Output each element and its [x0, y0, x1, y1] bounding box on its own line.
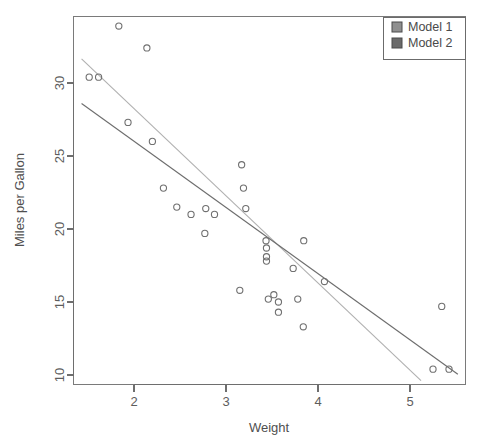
x-tick-label: 2: [130, 394, 137, 409]
figure-background: [0, 0, 477, 448]
x-tick-label: 5: [406, 394, 413, 409]
y-tick-label: 25: [52, 149, 67, 163]
legend[interactable]: Model 1Model 2: [384, 18, 466, 60]
x-tick-label: 3: [222, 394, 229, 409]
y-tick-label: 15: [52, 295, 67, 309]
y-tick-label: 10: [52, 368, 67, 382]
x-tick-label: 4: [314, 394, 321, 409]
legend-swatch-model-1[interactable]: [392, 22, 402, 32]
y-tick-label: 30: [52, 76, 67, 90]
chart-canvas: 1015202530 2345 Weight Miles per Gallon …: [0, 0, 477, 448]
y-axis-title: Miles per Gallon: [12, 153, 27, 247]
legend-swatch-model-2[interactable]: [392, 38, 402, 48]
legend-label-model-2: Model 2: [408, 36, 453, 50]
x-axis-title: Weight: [249, 420, 290, 435]
y-tick-label: 20: [52, 222, 67, 236]
scatter-plot-figure: 1015202530 2345 Weight Miles per Gallon …: [0, 0, 477, 448]
legend-label-model-1: Model 1: [408, 20, 453, 34]
